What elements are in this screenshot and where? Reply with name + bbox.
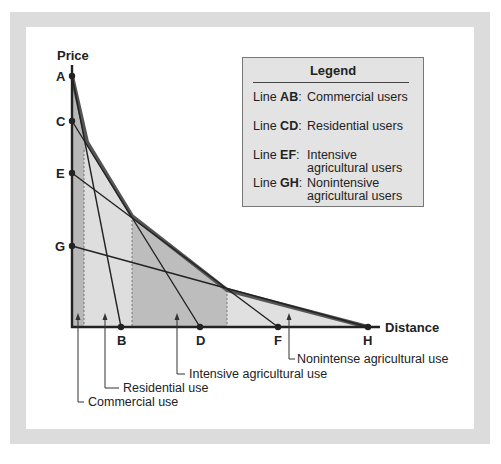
legend-divider — [253, 82, 409, 83]
label-commercial-use: Commercial use — [88, 395, 178, 409]
label-nonintense-use: Nonintense agricultural use — [297, 352, 448, 366]
point-label-b: B — [117, 333, 126, 348]
point-label-a: A — [56, 69, 65, 84]
point-label-g: G — [55, 239, 65, 254]
y-axis-label: Price — [57, 48, 89, 63]
zone-residential — [84, 142, 132, 327]
point-label-d: D — [196, 333, 205, 348]
legend-title: Legend — [243, 63, 423, 78]
legend-desc: Residential users — [307, 120, 419, 133]
legend-desc: Commercial users — [307, 91, 419, 104]
legend-key: Line CD: — [253, 120, 307, 133]
label-residential-use: Residential use — [123, 381, 208, 395]
legend-desc: Intensive agricultural users — [307, 149, 419, 175]
legend-key: Line EF: — [253, 149, 307, 175]
point-label-f: F — [274, 333, 282, 348]
label-intensive-use: Intensive agricultural use — [189, 367, 327, 381]
legend-key: Line GH: — [253, 177, 307, 203]
legend-item-ab: Line AB: Commercial users — [253, 91, 419, 104]
legend-item-cd: Line CD: Residential users — [253, 120, 419, 133]
x-axis-label: Distance — [385, 320, 439, 335]
legend-item-gh: Line GH: Nonintensive agricultural users — [253, 177, 419, 203]
point-label-c: C — [56, 114, 65, 129]
point-label-e: E — [56, 166, 65, 181]
legend-desc: Nonintensive agricultural users — [307, 177, 419, 203]
legend-box: Legend Line AB: Commercial users Line CD… — [242, 57, 424, 207]
zone-intensive — [132, 216, 227, 327]
point-label-h: H — [363, 333, 372, 348]
legend-key: Line AB: — [253, 91, 307, 104]
legend-item-ef: Line EF: Intensive agricultural users — [253, 149, 419, 175]
